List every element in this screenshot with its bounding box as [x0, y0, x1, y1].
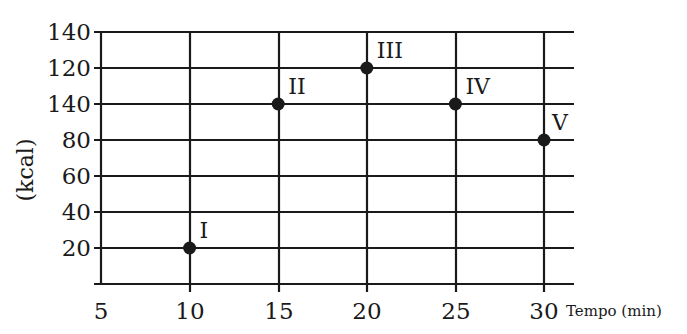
y-axis-tick-labels: 20406080140120140	[47, 19, 91, 261]
y-tick-label: 120	[47, 55, 91, 81]
x-axis-title: Tempo (min)	[566, 302, 662, 320]
x-tick-label: 30	[529, 298, 558, 324]
scatter-chart: 20406080140120140 51015202530 IIIIIIIVV …	[0, 0, 687, 334]
data-point-label: I	[200, 218, 209, 243]
y-tick-label: 20	[62, 235, 91, 261]
y-tick-label: 140	[47, 19, 91, 45]
x-tick-label: 25	[441, 298, 470, 324]
data-point-iii	[360, 62, 373, 75]
y-tick-label: 60	[62, 163, 91, 189]
x-tick-label: 5	[94, 298, 109, 324]
x-tick-label: 10	[175, 298, 204, 324]
data-point-label: II	[288, 74, 305, 99]
data-point-v	[538, 134, 551, 147]
x-tick-label: 15	[264, 298, 293, 324]
data-points: IIIIIIIVV	[183, 38, 569, 255]
data-point-label: IV	[465, 74, 491, 99]
vertical-gridlines	[101, 32, 544, 292]
data-point-i	[183, 242, 196, 255]
data-point-ii	[272, 98, 285, 111]
data-point-label: V	[551, 110, 569, 135]
data-point-iv	[449, 98, 462, 111]
x-tick-label: 20	[352, 298, 381, 324]
horizontal-gridlines	[94, 32, 574, 284]
y-tick-label: 40	[62, 199, 91, 225]
x-axis-tick-labels: 51015202530	[94, 298, 559, 324]
y-tick-label: 80	[62, 127, 91, 153]
y-tick-label: 140	[47, 91, 91, 117]
y-axis-title: (kcal)	[13, 139, 38, 202]
data-point-label: III	[377, 38, 403, 63]
